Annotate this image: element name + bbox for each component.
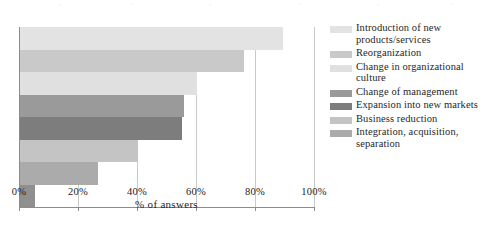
legend-item-label: Change of management (356, 86, 458, 98)
legend-item-label: Introduction of new products/services (356, 22, 441, 45)
legend-swatch (330, 90, 352, 97)
x-axis-title: % of answers (19, 198, 314, 210)
bar (20, 140, 138, 163)
legend-item-label: Integration, acquisition, separation (356, 126, 459, 149)
bar (20, 162, 98, 185)
x-tick-label: 80% (245, 186, 265, 197)
legend-swatch (330, 51, 352, 58)
gridline-100 (314, 27, 315, 207)
legend-item-label: Business reduction (356, 113, 437, 125)
legend-item: Change in organizational culture (330, 61, 494, 84)
x-tick-label: 40% (127, 186, 147, 197)
bar (20, 27, 283, 50)
legend-item: Introduction of new products/services (330, 22, 494, 45)
bar (20, 72, 197, 95)
legend-item: Expansion into new markets (330, 99, 494, 111)
legend-item: Business reduction (330, 113, 494, 125)
x-tick-100 (314, 207, 315, 211)
legend-swatch (330, 117, 352, 124)
bar-series (20, 27, 314, 207)
legend-swatch (330, 26, 352, 33)
x-tick-label: 20% (68, 186, 88, 197)
plot-area (19, 27, 314, 207)
chart-figure: 0%20%40%60%80%100% % of answers Introduc… (0, 0, 494, 243)
x-tick-label: 60% (186, 186, 206, 197)
legend-swatch (330, 130, 352, 137)
legend-item-label: Change in organizational culture (356, 61, 464, 84)
scan-artifact (0, 0, 494, 10)
legend-swatch (330, 65, 352, 72)
legend-item-label: Expansion into new markets (356, 99, 478, 111)
chart-legend: Introduction of new products/servicesReo… (330, 22, 494, 151)
x-tick-label: 100% (301, 186, 326, 197)
legend-item-label: Reorganization (356, 47, 421, 59)
bar (20, 117, 182, 140)
legend-swatch (330, 103, 352, 110)
bar (20, 50, 244, 73)
legend-item: Change of management (330, 86, 494, 98)
legend-item: Integration, acquisition, separation (330, 126, 494, 149)
x-tick-label: 0% (12, 186, 26, 197)
bar (20, 95, 184, 118)
legend-item: Reorganization (330, 47, 494, 59)
